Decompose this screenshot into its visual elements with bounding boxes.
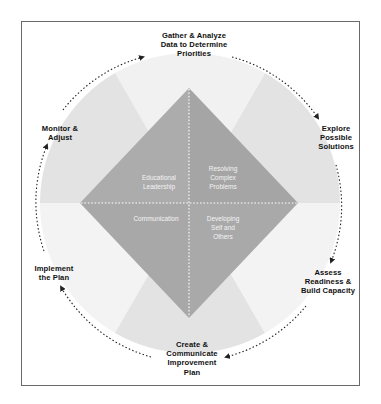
- step-explore-possible-solutions: Explore Possible Solutions: [306, 124, 366, 152]
- step-gather-analyze-data: Gather & Analyze Data to Determine Prior…: [142, 31, 246, 59]
- quadrant-label-educational-leadership: Educational Leadership: [130, 173, 188, 191]
- step-create-communicate-plan: Create & Communicate Improvement Plan: [150, 340, 234, 377]
- step-monitor-adjust: Monitor & Adjust: [30, 124, 90, 142]
- step-implement-the-plan: Implement the Plan: [22, 264, 86, 282]
- step-assess-readiness: Assess Readiness & Build Capacity: [290, 268, 366, 296]
- quadrant-label-developing-self-and-others: Developing Self and Others: [194, 214, 252, 241]
- quadrant-label-communication: Communication: [123, 214, 190, 223]
- quadrant-label-resolving-complex-problems: Resolving Complex Problems: [194, 164, 252, 191]
